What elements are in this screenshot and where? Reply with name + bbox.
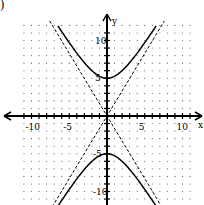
x-axis-label: x <box>198 120 203 130</box>
x-tick-label: -5 <box>63 122 72 132</box>
y-axis-label: y <box>111 16 118 26</box>
x-tick-label: 5 <box>139 122 145 132</box>
x-tick-label: 10 <box>177 122 189 132</box>
y-tick-label: -10 <box>93 187 108 197</box>
x-tick-label: -10 <box>26 122 41 132</box>
y-tick-label: 10 <box>95 36 107 46</box>
hyperbola-plot: -10-5510105-5-10xy <box>0 0 204 205</box>
